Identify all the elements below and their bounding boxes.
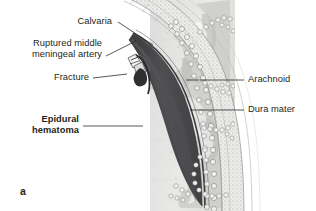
label-ruptured-artery-line1: Ruptured middle — [0, 38, 102, 49]
epidural-hematoma-figure: Calvaria Ruptured middle meningeal arter… — [0, 0, 316, 211]
figure-letter: a — [20, 185, 26, 197]
label-calvaria: Calvaria — [0, 16, 112, 27]
label-arachnoid: Arachnoid — [248, 74, 290, 85]
label-dura-mater: Dura mater — [248, 104, 295, 115]
label-epidural-line1: Epidural — [0, 114, 79, 125]
artery-leader — [106, 41, 136, 56]
label-fracture: Fracture — [0, 72, 89, 83]
fracture-leader — [93, 74, 127, 78]
label-ruptured-artery-line2: meningeal artery — [0, 49, 102, 60]
label-epidural-line2: hematoma — [0, 125, 79, 136]
